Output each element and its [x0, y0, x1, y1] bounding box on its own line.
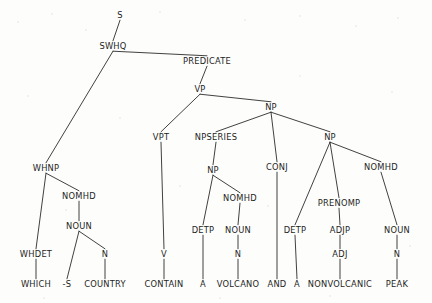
nonterminal-node-v: V	[160, 250, 168, 258]
nonterminal-node-swhq: SWHQ	[98, 42, 127, 50]
nonterminal-node-np-mid: NP	[206, 166, 220, 174]
nonterminal-node-noun-wh: NOUN	[65, 222, 93, 230]
terminal-node-t-which: WHICH	[20, 280, 52, 288]
terminal-node-t-contain: CONTAIN	[143, 280, 184, 288]
nonterminal-node-np-top: NP	[264, 103, 278, 111]
nonterminal-node-adj: ADJ	[331, 250, 348, 258]
terminal-node-t-and: AND	[266, 280, 287, 288]
nonterminal-node-adjp: ADJP	[329, 226, 352, 234]
nonterminal-node-detp-right: DETP	[283, 226, 308, 234]
nonterminal-node-whnp: WHNP	[32, 164, 61, 172]
nonterminal-node-np-right: NP	[323, 133, 337, 141]
nonterminal-node-n-right: N	[393, 250, 401, 258]
terminal-node-t-volcano: VOLCANO	[216, 280, 261, 288]
terminal-node-t-a2: A	[293, 280, 301, 288]
nonterminal-node-nomhd-right: NOMHD	[363, 163, 399, 171]
nonterminal-node-n-wh: N	[101, 250, 109, 258]
terminal-node-t-peak: PEAK	[385, 280, 409, 288]
nonterminal-node-npseries: NPSERIES	[194, 133, 238, 141]
nonterminal-node-noun-right: NOUN	[383, 226, 411, 234]
nonterminal-node-detp-mid: DETP	[191, 226, 216, 234]
parse-tree-figure: SSWHQPREDICATEVPNPVPTNPSERIESNPWHNPNPCON…	[0, 0, 432, 303]
terminal-node-t-s: -S	[62, 280, 73, 288]
nonterminal-node-nomhd-wh: NOMHD	[61, 192, 97, 200]
nonterminal-node-n-mid: N	[234, 250, 242, 258]
nonterminal-node-conj: CONJ	[265, 163, 289, 171]
nonterminal-node-vp: VP	[193, 85, 206, 93]
terminal-node-t-a1: A	[199, 280, 207, 288]
tree-labels-layer: SSWHQPREDICATEVPNPVPTNPSERIESNPWHNPNPCON…	[0, 0, 432, 303]
nonterminal-node-prenomp: PRENOMP	[317, 199, 362, 207]
nonterminal-node-predicate: PREDICATE	[182, 57, 232, 65]
nonterminal-node-s: S	[116, 11, 124, 19]
nonterminal-node-noun-mid: NOUN	[224, 226, 252, 234]
terminal-node-t-nonvolcanic: NONVOLCANIC	[307, 280, 373, 288]
nonterminal-node-vpt: VPT	[152, 133, 171, 141]
nonterminal-node-nomhd-mid: NOMHD	[222, 194, 258, 202]
nonterminal-node-whdet: WHDET	[19, 250, 53, 258]
terminal-node-t-country: COUNTRY	[83, 280, 127, 288]
